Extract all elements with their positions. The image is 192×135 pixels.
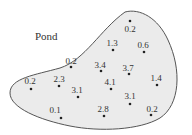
measurement-label: 0.2 [146, 104, 157, 114]
measurement-label: 2.3 [53, 74, 65, 84]
measurement-label: 1.3 [106, 38, 118, 48]
measurement-dot [129, 103, 132, 106]
measurement-label: 3.1 [124, 91, 135, 101]
measurement-dot [112, 49, 115, 52]
measurement-dot [110, 88, 113, 91]
measurement-dot [60, 117, 63, 120]
measurement-dot [70, 66, 73, 69]
measurement-label: 2.8 [97, 104, 109, 114]
measurement-label: 0.2 [124, 24, 135, 34]
measurement-label: 1.4 [150, 73, 162, 83]
measurement-label: 0.2 [24, 76, 35, 86]
measurement-dot [100, 70, 103, 73]
measurement-label: 3.7 [122, 63, 134, 73]
measurement-label: 3.4 [94, 60, 106, 70]
measurement-dot [58, 85, 61, 88]
measurement-dot [128, 73, 131, 76]
measurement-dot [30, 88, 33, 91]
measurement-label: 0.6 [137, 40, 149, 50]
measurement-label: 3.1 [71, 85, 82, 95]
measurement-dot [77, 96, 80, 99]
pond-diagram: Pond 0.21.30.60.23.43.70.22.33.14.11.43.… [0, 0, 192, 135]
pond-title: Pond [35, 30, 58, 42]
measurement-label: 4.1 [104, 77, 115, 87]
measurement-dot [150, 114, 153, 117]
measurement-label: 0.1 [49, 105, 60, 115]
measurement-dot [143, 51, 146, 54]
measurement-dot [156, 84, 159, 87]
measurement-label: 0.2 [65, 56, 76, 66]
measurement-dot [103, 115, 106, 118]
measurement-dot [129, 20, 132, 23]
